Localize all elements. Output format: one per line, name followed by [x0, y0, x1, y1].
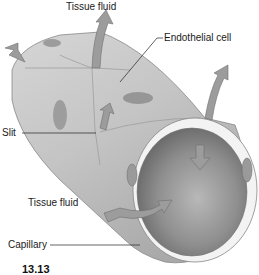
label-capillary: Capillary: [8, 240, 47, 250]
arrow-left-icon: [5, 43, 25, 62]
label-endothelial-cell: Endothelial cell: [164, 33, 231, 43]
label-slit: Slit: [2, 128, 16, 138]
nucleus-icon: [127, 164, 137, 186]
label-tissue-fluid-bottom: Tissue fluid: [28, 198, 78, 208]
arrow-up-icon: [205, 65, 228, 120]
nucleus-icon: [43, 39, 61, 47]
label-tissue-fluid-top: Tissue fluid: [66, 2, 116, 12]
nucleus-icon: [242, 158, 252, 182]
nucleus-icon: [123, 92, 153, 104]
nucleus-icon: [53, 100, 67, 130]
figure-number: 13.13: [22, 263, 50, 275]
